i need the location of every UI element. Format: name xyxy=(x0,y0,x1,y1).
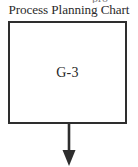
process-box-g3: G-3 xyxy=(8,21,127,124)
down-arrow-icon xyxy=(56,124,82,167)
chart-title: Process Planning Chart xyxy=(0,2,138,17)
process-box-label: G-3 xyxy=(10,23,125,122)
arrow-head xyxy=(63,150,76,166)
process-planning-chart-page: pro Process Planning Chart G-3 xyxy=(0,0,138,167)
